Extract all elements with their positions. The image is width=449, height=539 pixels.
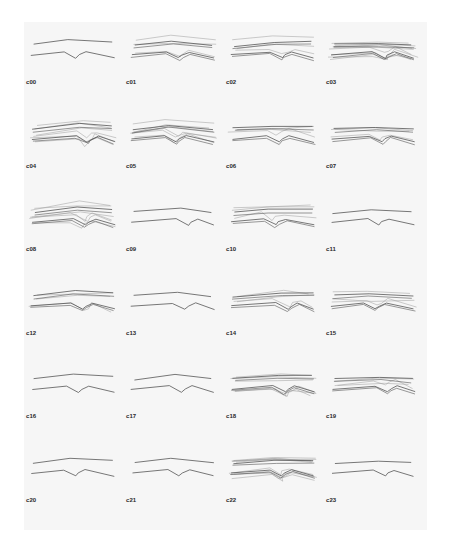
cell-label: c09 <box>126 246 136 252</box>
cell-label: c08 <box>26 246 36 252</box>
sketch-stroke-faint <box>338 383 408 385</box>
sketch-cell[interactable]: c07 <box>324 106 424 189</box>
sketch-cell[interactable]: c23 <box>324 440 424 523</box>
sketch-cell[interactable]: c12 <box>24 273 124 356</box>
cell-label: c07 <box>326 163 336 169</box>
sketch-stroke-upper <box>34 374 113 379</box>
sketch-cell[interactable]: c02 <box>224 22 324 105</box>
sketch-drawing <box>124 106 224 176</box>
sketch-stroke-faint <box>29 302 111 311</box>
cell-label: c14 <box>226 330 236 336</box>
sketch-cell[interactable]: c17 <box>124 356 224 439</box>
sketch-stroke-faint <box>236 50 314 54</box>
cell-label: c01 <box>126 79 136 85</box>
sketch-cell[interactable]: c19 <box>324 356 424 439</box>
sketch-stroke-upper <box>135 374 211 380</box>
sketch-stroke-faint <box>37 127 112 134</box>
sketch-stroke-lower <box>232 302 314 309</box>
sketch-cell[interactable]: c00 <box>24 22 124 105</box>
cell-label: c23 <box>326 497 336 503</box>
sketch-stroke-lower <box>32 469 114 476</box>
cell-label: c19 <box>326 413 336 419</box>
cell-label: c03 <box>326 79 336 85</box>
sketch-drawing <box>324 22 424 92</box>
sketch-drawing <box>224 440 324 510</box>
cell-label: c18 <box>226 413 236 419</box>
sketch-stroke-upper <box>135 458 213 462</box>
sketch-stroke-faint <box>136 35 215 40</box>
sketch-drawing <box>324 273 424 343</box>
sketch-cell[interactable]: c18 <box>224 356 324 439</box>
sketch-stroke-faint <box>328 55 412 60</box>
sketch-stroke-lower <box>333 386 415 392</box>
sketch-drawing <box>224 273 324 343</box>
sketch-cell[interactable]: c15 <box>324 273 424 356</box>
sketch-cell[interactable]: c08 <box>24 189 124 272</box>
sketch-stroke-lower <box>132 219 214 226</box>
sketch-drawing <box>124 22 224 92</box>
sketch-cell[interactable]: c01 <box>124 22 224 105</box>
sketch-stroke-faint <box>332 42 408 43</box>
sketch-cell[interactable]: c22 <box>224 440 324 523</box>
cell-label: c17 <box>126 413 136 419</box>
sketch-cell[interactable]: c14 <box>224 273 324 356</box>
sketch-drawing <box>324 356 424 426</box>
sketch-drawing <box>324 440 424 510</box>
sketch-drawing <box>24 22 124 92</box>
cell-label: c13 <box>126 330 136 336</box>
sketch-stroke-faint <box>334 298 414 301</box>
cell-label: c21 <box>126 497 136 503</box>
sketch-stroke-upper <box>135 41 212 45</box>
sketch-stroke-upper <box>235 209 313 212</box>
sketch-cell[interactable]: c05 <box>124 106 224 189</box>
sketch-stroke-lower-alt <box>233 221 314 228</box>
sketch-cell[interactable]: c11 <box>324 189 424 272</box>
sketch-cell[interactable]: c04 <box>24 106 124 189</box>
sketch-drawing <box>24 440 124 510</box>
sketch-sheet: c00c01c02c03c04c05c06c07c08c09c10c11c12c… <box>24 22 427 530</box>
cell-label: c12 <box>26 330 36 336</box>
cell-label: c11 <box>326 246 336 252</box>
sketch-stroke-faint <box>235 388 310 396</box>
sketch-drawing <box>24 189 124 259</box>
sketch-drawing <box>124 273 224 343</box>
sketch-drawing <box>224 106 324 176</box>
sketch-cell[interactable]: c10 <box>224 189 324 272</box>
sketch-drawing <box>24 106 124 176</box>
sketch-stroke-upper <box>134 208 211 212</box>
sketch-drawing <box>224 356 324 426</box>
sketch-drawing <box>324 189 424 259</box>
sketch-cell[interactable]: c06 <box>224 106 324 189</box>
sketch-stroke-lower <box>133 469 213 475</box>
sketch-stroke-upper <box>134 292 211 296</box>
sketch-stroke-lower-alt <box>231 304 314 311</box>
cell-label: c15 <box>326 330 336 336</box>
sketch-cell[interactable]: c20 <box>24 440 124 523</box>
sketch-stroke-faint <box>234 207 314 208</box>
sketch-cell[interactable]: c16 <box>24 356 124 439</box>
cell-label: c02 <box>226 79 236 85</box>
sketch-stroke-lower <box>131 302 214 309</box>
sketch-stroke-upper <box>33 458 112 463</box>
cell-label: c05 <box>126 163 136 169</box>
sketch-stroke-faint <box>233 36 314 40</box>
sketch-stroke-lower <box>31 52 114 59</box>
cell-label: c22 <box>226 497 236 503</box>
sketch-drawing <box>24 356 124 426</box>
cell-label: c06 <box>226 163 236 169</box>
sketch-drawing <box>224 22 324 92</box>
sketch-drawing <box>124 356 224 426</box>
sketch-stroke-faint <box>333 291 410 293</box>
sketch-cell[interactable]: c21 <box>124 440 224 523</box>
sketch-cell[interactable]: c09 <box>124 189 224 272</box>
cell-label: c20 <box>26 497 36 503</box>
sketch-stroke-upper <box>335 293 413 295</box>
sketch-cell[interactable]: c03 <box>324 22 424 105</box>
sketch-stroke-upper-alt <box>233 44 311 49</box>
sketch-stroke-upper <box>335 461 411 463</box>
cell-label: c16 <box>26 413 36 419</box>
cell-label: c10 <box>226 246 236 252</box>
sketch-stroke-faint <box>232 474 314 481</box>
sketch-stroke-lower <box>131 386 213 393</box>
sketch-cell[interactable]: c13 <box>124 273 224 356</box>
